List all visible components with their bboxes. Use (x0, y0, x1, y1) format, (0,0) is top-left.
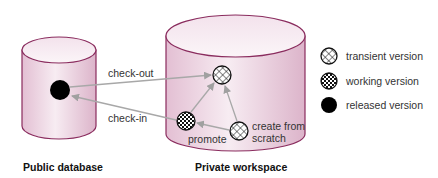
create-from-label: create from (252, 120, 305, 132)
private-workspace-title: Private workspace (195, 161, 287, 173)
released-version-icon (321, 97, 337, 113)
legend-transient-label: transient version (346, 50, 423, 62)
public-database-title: Public database (23, 161, 103, 173)
legend-released-label: released version (346, 99, 423, 111)
create-from-scratch-node (230, 122, 248, 140)
legend: transient version working version releas… (321, 48, 423, 113)
promote-label: promote (188, 133, 227, 145)
scratch-label: scratch (252, 132, 286, 144)
transient-version-node (213, 66, 231, 84)
working-version-node (177, 112, 195, 130)
legend-working-label: working version (345, 75, 419, 87)
transient-version-icon (321, 48, 337, 64)
released-version-node (50, 80, 70, 100)
diagram-canvas: check-out check-in promote create from s… (0, 0, 438, 178)
check-out-label: check-out (108, 67, 154, 79)
check-in-label: check-in (108, 112, 147, 124)
working-version-icon (321, 73, 337, 89)
